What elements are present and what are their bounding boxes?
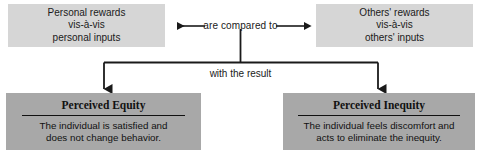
equity-body-line-2: does not change behavior. [40,132,168,144]
personal-rewards-line-1: Personal rewards [48,7,126,20]
inequity-body-line-1: The individual feels discomfort and [304,120,455,132]
perceived-equity-body: The individual is satisfied and does not… [40,120,168,145]
perceived-inequity-body: The individual feels discomfort and acts… [304,120,455,145]
personal-rewards-line-3: personal inputs [53,32,121,45]
perceived-inequity-heading: Perceived Inequity [333,99,425,112]
inequity-heading-divider [298,115,459,116]
are-compared-to-label: are compared to [0,20,481,31]
with-the-result-label: with the result [0,68,481,79]
others-rewards-line-1: Others' rewards [359,7,429,20]
others-rewards-line-3: others' inputs [365,32,424,45]
equity-body-line-1: The individual is satisfied and [40,120,168,132]
equity-theory-diagram: Personal rewards vis-à-vis personal inpu… [0,0,481,154]
perceived-equity-box: Perceived Equity The individual is satis… [6,93,201,150]
equity-heading-divider [22,115,186,116]
perceived-equity-heading: Perceived Equity [62,99,146,112]
perceived-inequity-box: Perceived Inequity The individual feels … [283,93,475,150]
inequity-body-line-2: acts to eliminate the inequity. [304,132,455,144]
